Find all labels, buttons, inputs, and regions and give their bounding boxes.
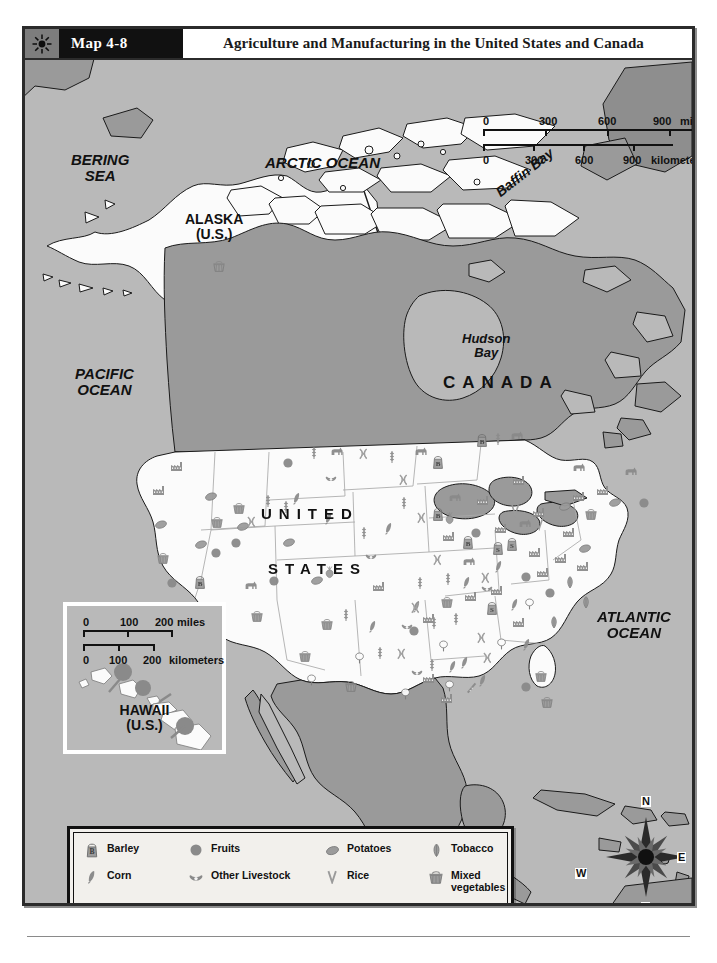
legend-item-fruits[interactable]: Fruits [186, 840, 322, 860]
map-page: Map 4-8 Agriculture and Manufacturing in… [0, 0, 717, 963]
scale-bar-main: 0 300 600 900 miles [483, 115, 692, 168]
barley-icon [82, 840, 102, 860]
soybeans-icon [322, 901, 342, 904]
legend-item-manufacturing-center[interactable]: Manufacturing center [186, 901, 322, 904]
legend-item-mixed-vegetables[interactable]: Mixed vegetables [426, 867, 505, 894]
map-number: Map 4-8 [59, 29, 183, 58]
scale-miles-bar [483, 129, 692, 137]
legend-label: Soybeans [347, 901, 397, 904]
page-title: Agriculture and Manufacturing in the Uni… [183, 29, 692, 58]
hawaii-scale-bar: 0 100 200 miles [83, 616, 211, 668]
manufacturing-center-icon [186, 901, 206, 904]
other-livestock-icon [186, 867, 206, 887]
legend-item-rice[interactable]: Rice [322, 867, 426, 894]
wheat-icon [426, 901, 446, 904]
compass-north-label: N [641, 796, 651, 807]
legend-label: Manufacturing center [211, 901, 318, 904]
legend-grid: Barley Fruits Potatoes Tobacco [82, 840, 501, 903]
compass-rose: N E S W [591, 802, 692, 903]
hawaii-inset: 0 100 200 miles [63, 602, 226, 754]
legend-label: Wheat [451, 901, 483, 904]
map-title-bar: Map 4-8 Agriculture and Manufacturing in… [25, 29, 692, 60]
legend-label: Fruits [211, 840, 240, 855]
hawaii-scale-miles-labels: 0 100 200 miles [83, 616, 211, 630]
mixed-vegetables-icon [426, 867, 446, 887]
compass-east-label: E [677, 852, 686, 863]
map-graphic: B S [25, 60, 692, 903]
legend-label: Corn [107, 867, 132, 882]
compass-south-label: S [641, 902, 650, 903]
tobacco-icon [426, 840, 446, 860]
legend-label: Rice [347, 867, 369, 882]
legend-label: Barley [107, 840, 139, 855]
legend-label: Other Livestock [211, 867, 290, 882]
legend-item-soybeans[interactable]: Soybeans [322, 901, 426, 904]
corn-icon [82, 867, 102, 887]
hawaii-scale-kilometers-labels: 0 100 200 kilometers [83, 654, 211, 668]
legend-label: Potatoes [347, 840, 391, 855]
bottom-rule [27, 936, 690, 937]
legend-item-other-livestock[interactable]: Other Livestock [186, 867, 322, 894]
potatoes-icon [322, 840, 342, 860]
scale-kilometers-bar [483, 144, 692, 152]
legend-item-barley[interactable]: Barley [82, 840, 186, 860]
cotton-icon [82, 901, 102, 904]
hawaii-scale-kilometers-bar [83, 644, 211, 652]
scale-kilometers-labels: 0 300 600 900 kilometers [483, 154, 692, 168]
map-canvas: B S [25, 60, 692, 903]
scale-miles-labels: 0 300 600 900 miles [483, 115, 692, 129]
rice-icon [322, 867, 342, 887]
legend-label: Tobacco [451, 840, 493, 855]
legend-item-cotton[interactable]: Cotton [82, 901, 186, 904]
legend-inner: Barley Fruits Potatoes Tobacco [73, 832, 508, 903]
legend-item-tobacco[interactable]: Tobacco [426, 840, 505, 860]
fruits-icon [186, 840, 206, 860]
legend-label: Cotton [107, 901, 141, 904]
map-figure: Map 4-8 Agriculture and Manufacturing in… [22, 26, 695, 906]
legend-item-potatoes[interactable]: Potatoes [322, 840, 426, 860]
map-legend: Barley Fruits Potatoes Tobacco [67, 826, 514, 903]
compass-west-label: W [575, 868, 587, 879]
legend-label: Mixed vegetables [451, 867, 505, 894]
label-hawaii: HAWAII (U.S.) [67, 703, 222, 733]
legend-item-wheat[interactable]: Wheat [426, 901, 505, 904]
sun-icon [25, 29, 59, 58]
hawaii-scale-miles-bar [83, 630, 211, 638]
legend-item-corn[interactable]: Corn [82, 867, 186, 894]
